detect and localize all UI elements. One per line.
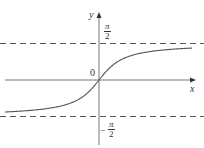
y-axis-label: y [89, 10, 93, 20]
upper-label-denominator: 2 [104, 32, 111, 41]
x-axis-label: x [190, 84, 194, 94]
lower-label-denominator: 2 [108, 130, 115, 139]
y-axis-arrow-icon [97, 12, 102, 18]
lower-asymptote-label: π 2 [108, 120, 115, 139]
arctan-chart: y x 0 π 2 − π 2 [0, 0, 204, 148]
upper-asymptote-label: π 2 [104, 22, 111, 41]
lower-asymptote-sign: − [100, 126, 105, 135]
x-axis-arrow-icon [190, 78, 196, 83]
origin-label: 0 [90, 68, 95, 78]
